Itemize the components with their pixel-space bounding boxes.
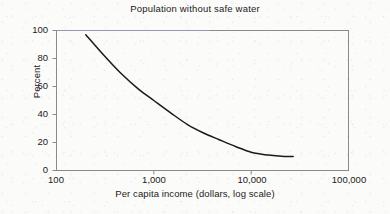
data-curve-population-without-safe-water [86,35,293,157]
chart-figure: Population without safe water Percent 10… [0,0,390,214]
x-axis-ticks [154,171,251,175]
plot-area [0,0,390,214]
y-axis-ticks [53,31,57,171]
